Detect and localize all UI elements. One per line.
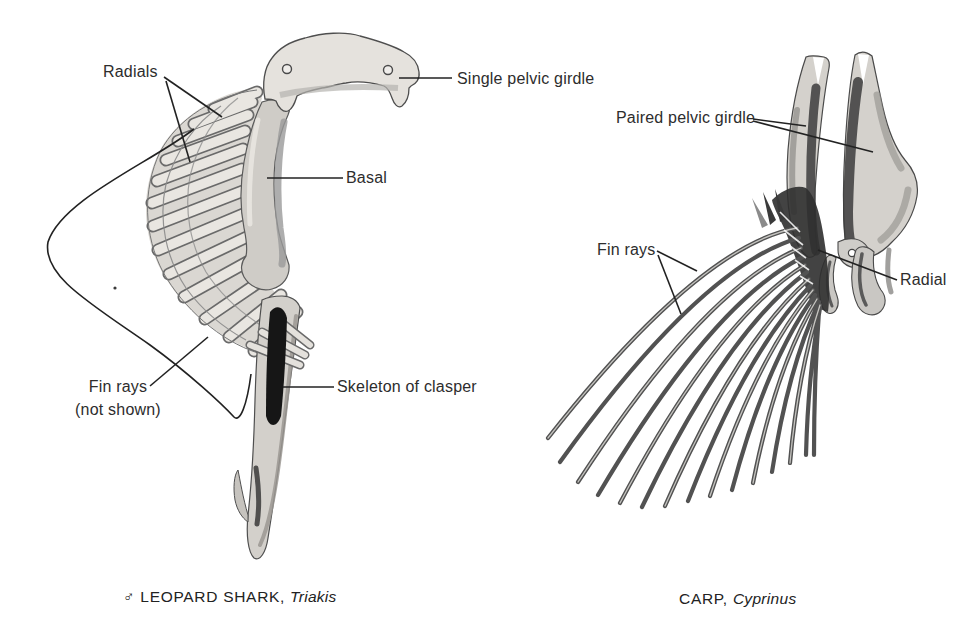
anatomy-figure: Radials Single pelvic girdle Basal Fin r… [0,0,976,617]
label-fin-rays-not-shown: Fin rays (not shown) [68,376,168,421]
shark-clasper-tip-streak [256,468,259,524]
label-skeleton-of-clasper: Skeleton of clasper [337,378,477,396]
shark-clasper-spur [234,470,248,522]
shark-illustration [47,33,452,559]
label-paired-pelvic-girdle: Paired pelvic girdle [616,109,755,127]
label-fin-rays-line1: Fin rays [89,378,148,395]
shark-girdle-foramen-right [384,66,393,75]
carp-common-name: CARP, [679,590,728,607]
label-single-pelvic-girdle: Single pelvic girdle [457,70,594,88]
carp-caption: CARP,Cyprinus [679,590,796,608]
carp-genus: Cyprinus [733,590,797,607]
figure-artwork [0,0,976,617]
label-basal: Basal [346,169,387,187]
label-fin-rays-line2: (not shown) [75,401,161,418]
label-carp-fin-rays: Fin rays [597,241,656,259]
shark-girdle-foramen-left [283,65,292,74]
leader-radials-upper [164,77,222,117]
carp-process-right [852,247,885,315]
shark-common-name: LEOPARD SHARK, [140,588,285,605]
print-speck [113,286,116,289]
label-carp-radial: Radial [900,271,947,289]
male-symbol: ♂ [123,588,135,605]
shark-basal-shading [278,122,284,264]
carp-process-far-right [888,250,891,292]
shark-caption: ♂LEOPARD SHARK,Triakis [123,588,337,606]
label-radials: Radials [103,63,158,81]
shark-genus: Triakis [290,588,337,605]
